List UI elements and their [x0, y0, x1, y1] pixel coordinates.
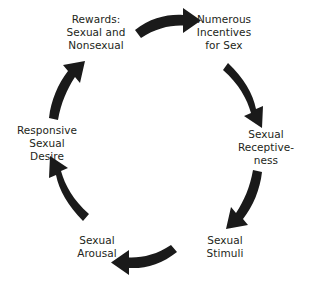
arrow-receptiveness-to-stimuli: [226, 170, 262, 229]
node-label-arousal: Sexual Arousal: [62, 234, 132, 260]
sexual-response-cycle-diagram: Rewards: Sexual and Nonsexual Numerous I…: [0, 0, 311, 290]
node-label-incentives: Numerous Incentives for Sex: [186, 13, 262, 53]
node-label-desire: Responsive Sexual Desire: [8, 124, 86, 164]
node-label-receptiveness: Sexual Receptive- ness: [228, 128, 304, 168]
arrow-desire-to-rewards: [49, 61, 85, 120]
node-label-stimuli: Sexual Stimuli: [190, 234, 260, 260]
arrow-incentives-to-receptiveness: [223, 63, 263, 128]
arrow-arousal-to-desire: [49, 156, 89, 221]
node-label-rewards: Rewards: Sexual and Nonsexual: [58, 13, 134, 53]
